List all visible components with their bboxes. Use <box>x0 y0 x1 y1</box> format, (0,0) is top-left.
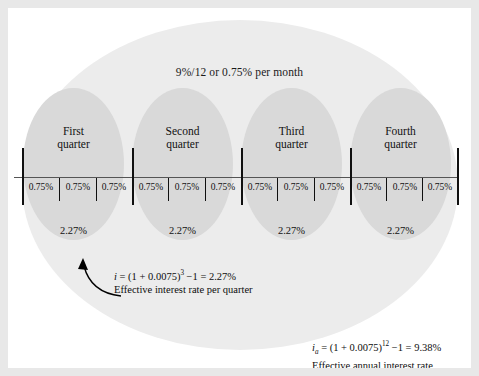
quarter-title-2: Second quarter <box>132 125 233 151</box>
quarter-ellipse-3 <box>241 88 342 240</box>
quarter-title-1-line2: quarter <box>23 138 124 151</box>
quarter-effective-rate-1: 2.27% <box>23 225 124 236</box>
month-rate-8: 0.75% <box>278 182 314 192</box>
quarter-title-3: Third quarter <box>241 125 342 151</box>
month-rate-10: 0.75% <box>351 182 387 192</box>
annual-formula-tail: −1 = 9.38% <box>389 342 441 353</box>
annual-formula-description: Effective annual interest rate <box>312 359 441 368</box>
month-rate-3: 0.75% <box>96 182 132 192</box>
quarter-title-1-line1: First <box>23 125 124 138</box>
quarter-effective-rate-4: 2.27% <box>350 225 451 236</box>
axis-tick-major-3 <box>350 148 352 205</box>
quarter-ellipse-1 <box>23 88 124 240</box>
quarter-formula-head: = (1 + 0.0075) <box>117 271 180 282</box>
quarter-title-4-line1: Fourth <box>350 125 451 138</box>
quarter-title-1: First quarter <box>23 125 124 151</box>
quarter-effective-rate-3: 2.27% <box>241 225 342 236</box>
month-rate-12: 0.75% <box>422 182 458 192</box>
quarter-effective-rate-2: 2.27% <box>132 225 233 236</box>
nominal-rate-label: 9%/12 or 0.75% per month <box>8 66 471 78</box>
month-rate-7: 0.75% <box>242 182 278 192</box>
quarter-formula-description: Effective interest rate per quarter <box>114 283 253 297</box>
axis-tick-major-4 <box>457 148 459 205</box>
annual-formula-head: = (1 + 0.0075) <box>319 342 382 353</box>
quarter-title-2-line1: Second <box>132 125 233 138</box>
timeline-axis <box>14 177 457 178</box>
quarter-title-4: Fourth quarter <box>350 125 451 151</box>
figure-frame: 9%/12 or 0.75% per month First quarter S… <box>0 0 479 376</box>
quarter-title-3-line2: quarter <box>241 138 342 151</box>
figure-canvas: 9%/12 or 0.75% per month First quarter S… <box>8 8 471 368</box>
annual-formula: ia = (1 + 0.0075)12 −1 = 9.38% <box>312 338 441 359</box>
month-rate-6: 0.75% <box>205 182 241 192</box>
quarter-ellipse-4 <box>350 88 451 240</box>
month-rate-11: 0.75% <box>387 182 423 192</box>
quarter-ellipse-2 <box>132 88 233 240</box>
axis-tick-major-1 <box>132 148 134 205</box>
quarter-formula: i = (1 + 0.0075)3 −1 = 2.27% <box>114 267 253 283</box>
month-rate-9: 0.75% <box>314 182 350 192</box>
quarter-title-4-line2: quarter <box>350 138 451 151</box>
month-rate-2: 0.75% <box>60 182 96 192</box>
annual-formula-callout: ia = (1 + 0.0075)12 −1 = 9.38% Effective… <box>312 338 441 368</box>
quarter-formula-callout: i = (1 + 0.0075)3 −1 = 2.27% Effective i… <box>114 267 253 297</box>
month-rate-5: 0.75% <box>169 182 205 192</box>
axis-tick-major-0 <box>22 148 24 205</box>
axis-tick-major-2 <box>241 148 243 205</box>
quarter-title-3-line1: Third <box>241 125 342 138</box>
quarter-title-2-line2: quarter <box>132 138 233 151</box>
quarter-formula-tail: −1 = 2.27% <box>184 271 236 282</box>
month-rate-1: 0.75% <box>23 182 59 192</box>
month-rate-4: 0.75% <box>133 182 169 192</box>
